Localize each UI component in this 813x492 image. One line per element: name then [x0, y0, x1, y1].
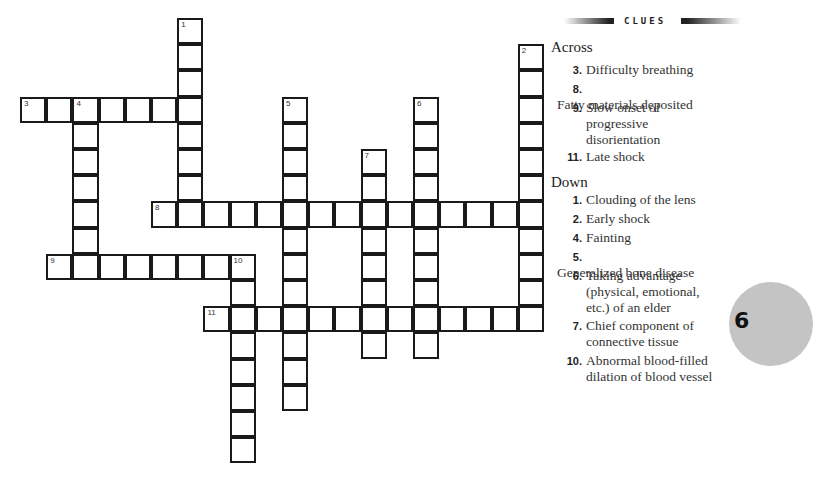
grid-cell[interactable]: [413, 280, 439, 306]
clue-number: 11.: [557, 149, 582, 165]
grid-cell[interactable]: [46, 97, 72, 123]
grid-cell[interactable]: [282, 149, 308, 175]
grid-cell[interactable]: [72, 175, 98, 201]
header-bar-left: [564, 18, 614, 24]
grid-cell[interactable]: [465, 201, 491, 227]
grid-cell[interactable]: [177, 70, 203, 96]
grid-cell[interactable]: [361, 332, 387, 358]
grid-cell[interactable]: 2: [518, 44, 544, 70]
grid-cell[interactable]: [282, 306, 308, 332]
grid-cell[interactable]: [282, 123, 308, 149]
grid-cell[interactable]: [256, 201, 282, 227]
grid-cell[interactable]: [230, 385, 256, 411]
grid-cell[interactable]: [518, 280, 544, 306]
grid-cell[interactable]: [518, 254, 544, 280]
grid-cell[interactable]: [230, 411, 256, 437]
crossword-grid: 1234567891011: [0, 0, 560, 492]
grid-cell[interactable]: [72, 228, 98, 254]
grid-cell[interactable]: [361, 175, 387, 201]
grid-cell[interactable]: [282, 201, 308, 227]
grid-cell[interactable]: [413, 175, 439, 201]
grid-cell[interactable]: [413, 306, 439, 332]
grid-cell[interactable]: [361, 201, 387, 227]
grid-cell[interactable]: [282, 228, 308, 254]
grid-cell[interactable]: [361, 306, 387, 332]
grid-cell[interactable]: [518, 306, 544, 332]
grid-cell[interactable]: [256, 306, 282, 332]
grid-cell[interactable]: [151, 254, 177, 280]
grid-cell[interactable]: 8: [151, 201, 177, 227]
grid-cell[interactable]: [413, 332, 439, 358]
grid-cell[interactable]: [282, 175, 308, 201]
clue-down-10: 10.Abnormal blood-filled dilation of blo…: [557, 353, 742, 385]
grid-cell[interactable]: [72, 123, 98, 149]
grid-cell[interactable]: [177, 149, 203, 175]
grid-cell[interactable]: [334, 201, 360, 227]
grid-cell[interactable]: [413, 123, 439, 149]
grid-cell[interactable]: [439, 306, 465, 332]
grid-cell[interactable]: [334, 306, 360, 332]
grid-cell[interactable]: [99, 254, 125, 280]
grid-cell[interactable]: [439, 201, 465, 227]
grid-cell[interactable]: [177, 97, 203, 123]
grid-cell[interactable]: [361, 254, 387, 280]
cell-number: 9: [50, 256, 54, 265]
grid-cell[interactable]: [230, 306, 256, 332]
grid-cell[interactable]: 4: [72, 97, 98, 123]
grid-cell[interactable]: [387, 306, 413, 332]
grid-cell[interactable]: [413, 254, 439, 280]
grid-cell[interactable]: 11: [203, 306, 229, 332]
grid-cell[interactable]: [361, 280, 387, 306]
grid-cell[interactable]: [230, 437, 256, 463]
grid-cell[interactable]: [518, 149, 544, 175]
grid-cell[interactable]: 6: [413, 97, 439, 123]
grid-cell[interactable]: [125, 97, 151, 123]
grid-cell[interactable]: [72, 254, 98, 280]
grid-cell[interactable]: [518, 123, 544, 149]
grid-cell[interactable]: [308, 306, 334, 332]
grid-cell[interactable]: 1: [177, 18, 203, 44]
grid-cell[interactable]: [125, 254, 151, 280]
grid-cell[interactable]: [177, 175, 203, 201]
grid-cell[interactable]: [518, 97, 544, 123]
grid-cell[interactable]: [282, 254, 308, 280]
grid-cell[interactable]: 9: [46, 254, 72, 280]
across-title: Across: [551, 39, 593, 56]
grid-cell[interactable]: [413, 228, 439, 254]
grid-cell[interactable]: [492, 201, 518, 227]
grid-cell[interactable]: [230, 280, 256, 306]
grid-cell[interactable]: [177, 123, 203, 149]
grid-cell[interactable]: [518, 70, 544, 96]
grid-cell[interactable]: 10: [230, 254, 256, 280]
grid-cell[interactable]: [230, 359, 256, 385]
grid-cell[interactable]: [282, 280, 308, 306]
grid-cell[interactable]: [282, 359, 308, 385]
grid-cell[interactable]: [203, 254, 229, 280]
grid-cell[interactable]: [413, 149, 439, 175]
grid-cell[interactable]: [282, 332, 308, 358]
grid-cell[interactable]: [361, 228, 387, 254]
grid-cell[interactable]: [72, 201, 98, 227]
grid-cell[interactable]: [492, 306, 518, 332]
grid-cell[interactable]: [99, 97, 125, 123]
clue-text: Taking advantage (physical, emotional, e…: [586, 268, 706, 316]
grid-cell[interactable]: [465, 306, 491, 332]
grid-cell[interactable]: [518, 201, 544, 227]
grid-cell[interactable]: [230, 201, 256, 227]
grid-cell[interactable]: 5: [282, 97, 308, 123]
grid-cell[interactable]: [282, 385, 308, 411]
grid-cell[interactable]: [72, 149, 98, 175]
grid-cell[interactable]: 3: [20, 97, 46, 123]
grid-cell[interactable]: [413, 201, 439, 227]
grid-cell[interactable]: [177, 201, 203, 227]
grid-cell[interactable]: 7: [361, 149, 387, 175]
grid-cell[interactable]: [387, 201, 413, 227]
grid-cell[interactable]: [308, 201, 334, 227]
grid-cell[interactable]: [177, 44, 203, 70]
grid-cell[interactable]: [518, 228, 544, 254]
grid-cell[interactable]: [203, 201, 229, 227]
grid-cell[interactable]: [518, 175, 544, 201]
grid-cell[interactable]: [151, 97, 177, 123]
grid-cell[interactable]: [230, 332, 256, 358]
grid-cell[interactable]: [177, 254, 203, 280]
